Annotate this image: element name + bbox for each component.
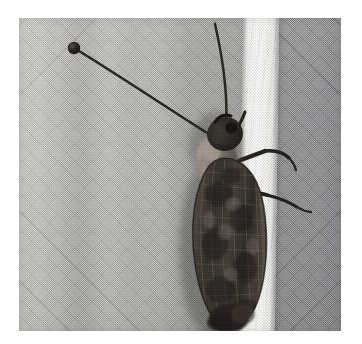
- photo-stage: large dark insect resting on gray woven …: [0, 0, 362, 344]
- film-grain: [19, 18, 341, 331]
- photograph: [19, 18, 341, 331]
